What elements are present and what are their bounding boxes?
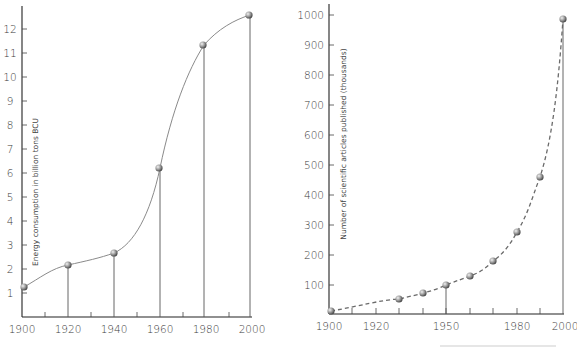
data-point: [245, 11, 252, 18]
left-y-label: 8: [7, 119, 14, 131]
left-x-label: 1980: [193, 323, 220, 335]
left-y-label: 2: [7, 263, 14, 275]
right-markers: [327, 15, 566, 314]
right-y-ticks: [329, 15, 334, 285]
left-x-label: 2000: [239, 323, 266, 335]
left-y-label: 5: [7, 191, 14, 203]
data-point: [513, 228, 520, 235]
left-y-labels: 1 2 3 4 5 6 7 8 9 10 11 12: [3, 23, 16, 299]
right-y-label: 900: [304, 39, 324, 51]
right-y-label: 200: [304, 249, 324, 261]
right-y-label: 300: [304, 219, 324, 231]
left-y-label: 12: [3, 23, 16, 35]
left-y-label: 10: [3, 71, 16, 83]
data-point: [327, 307, 334, 314]
left-y-label: 9: [7, 95, 14, 107]
right-drop-lines: [446, 19, 563, 314]
right-y-label: 600: [304, 129, 324, 141]
data-point: [489, 257, 496, 264]
right-y-label: 100: [304, 279, 324, 291]
left-y-label: 1: [7, 287, 14, 299]
right-y-axis-title: Number of scientific articles published …: [339, 48, 348, 239]
left-y-label: 3: [7, 239, 14, 251]
right-chart: 100 200 300 400 500 600 700 800 900 1000…: [297, 4, 577, 347]
right-y-labels: 100 200 300 400 500 600 700 800 900 1000: [297, 9, 324, 291]
left-energy-curve: [24, 15, 250, 287]
right-y-label: 800: [304, 69, 324, 81]
left-x-label: 1920: [55, 323, 82, 335]
left-y-label: 4: [7, 215, 14, 227]
left-y-label: 7: [7, 143, 14, 155]
data-point: [64, 261, 71, 268]
data-point: [559, 15, 566, 22]
left-x-label: 1900: [9, 323, 36, 335]
right-y-label: 700: [304, 99, 324, 111]
data-point: [466, 272, 473, 279]
right-x-label: 1950: [433, 320, 460, 332]
faint-watermark: [440, 345, 556, 347]
left-x-label: 1940: [101, 323, 128, 335]
left-chart: 1 2 3 4 5 6 7 8 9 10 11 12 1900 1920 194…: [3, 6, 265, 335]
data-point: [155, 164, 162, 171]
left-x-labels: 1900 1920 1940 1960 1980 2000: [9, 323, 266, 335]
right-articles-curve: [331, 19, 563, 311]
left-y-ticks: [22, 29, 27, 293]
data-point: [419, 289, 426, 296]
data-point: [442, 281, 449, 288]
left-y-label: 11: [3, 47, 16, 59]
right-x-labels: 1900 1920 1950 1980 2000: [316, 320, 577, 332]
right-x-label: 1920: [363, 320, 390, 332]
right-y-label: 1000: [297, 9, 324, 21]
right-y-label: 500: [304, 159, 324, 171]
data-point: [20, 283, 27, 290]
data-point: [536, 173, 543, 180]
left-x-ticks: [45, 312, 229, 317]
right-x-label: 1980: [504, 320, 531, 332]
right-x-label: 2000: [552, 320, 577, 332]
left-y-label: 6: [7, 167, 14, 179]
figure: 1 2 3 4 5 6 7 8 9 10 11 12 1900 1920 194…: [0, 0, 577, 349]
left-y-axis-title: Energy consumption in billion tons BCU: [31, 118, 40, 266]
data-point: [395, 295, 402, 302]
left-x-label: 1960: [147, 323, 174, 335]
data-point: [110, 249, 117, 256]
data-point: [199, 41, 206, 48]
left-markers: [20, 11, 252, 290]
right-y-label: 400: [304, 189, 324, 201]
right-x-label: 1900: [316, 320, 343, 332]
